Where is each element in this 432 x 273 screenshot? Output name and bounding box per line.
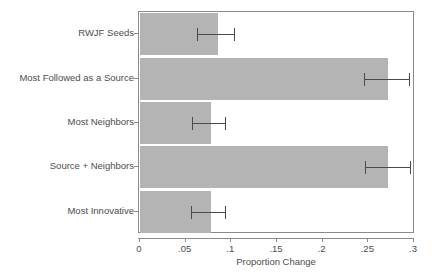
bar-row [139,13,415,55]
x-axis-tick-6 [413,238,414,242]
error-bar-cap-left [364,73,365,86]
x-axis-tick-3 [276,238,277,242]
bar [140,58,388,100]
y-axis-label-3: Source + Neighbors [50,160,134,171]
x-axis-tick-5 [367,238,368,242]
error-bar-cap-left [191,206,192,219]
error-bar-cap-left [192,117,193,130]
y-axis-tick-2 [134,122,138,123]
error-bar-line [365,167,412,168]
error-bar-cap-right [225,206,226,219]
bar-row [139,102,415,144]
error-bar-cap-right [409,73,410,86]
error-bar-cap-right [410,161,411,174]
y-axis-tick-3 [134,166,138,167]
error-bar-line [364,79,411,80]
error-bar-cap-right [234,28,235,41]
x-axis-tick-0 [139,238,140,242]
bar-row [139,191,415,233]
error-bar-cap-left [197,28,198,41]
y-axis-tick-4 [134,211,138,212]
x-axis-tick-2 [230,238,231,242]
x-axis-tick-label-5: .25 [361,243,374,254]
bar [140,146,388,188]
x-axis-tick-label-3: .15 [269,243,282,254]
y-axis-tick-0 [134,33,138,34]
y-axis-label-2: Most Neighbors [67,116,134,127]
y-axis-tick-1 [134,78,138,79]
x-axis-tick-4 [322,238,323,242]
error-bar-line [191,212,226,213]
error-bar-line [192,123,226,124]
y-axis-label-0: RWJF Seeds [78,27,134,38]
error-bar-line [197,34,235,35]
proportion-change-bar-chart: RWJF SeedsMost Followed as a SourceMost … [0,0,432,273]
x-axis-tick-label-2: .1 [226,243,234,254]
error-bar-cap-left [365,161,366,174]
x-axis-tick-label-0: 0 [136,243,141,254]
x-axis-tick-label-6: .3 [409,243,417,254]
y-axis-label-4: Most Innovative [67,205,134,216]
x-axis-tick-label-4: .2 [318,243,326,254]
x-axis-title: Proportion Change [138,256,414,267]
plot-area [138,11,414,233]
x-axis-tick-1 [185,238,186,242]
x-axis-tick-label-1: .05 [178,243,191,254]
y-axis-label-1: Most Followed as a Source [19,72,134,83]
error-bar-cap-right [225,117,226,130]
